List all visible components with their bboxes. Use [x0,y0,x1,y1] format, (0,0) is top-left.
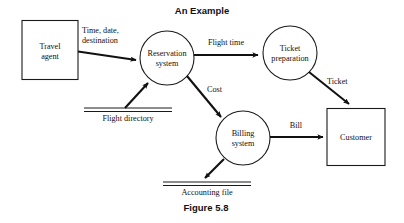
time-date-destination-label-line1: Time, date, [82,26,119,35]
ticket-preparation-label-line2: preparation [271,54,308,63]
reservation-system-circle [140,31,194,85]
data-flow-ticket[interactable]: Ticket [309,72,349,104]
data-flow-cost[interactable]: Cost [187,76,223,117]
cost-label: Cost [207,85,223,94]
reservation-system-label-line1: Reservation [147,49,186,58]
data-flow-diagram: An Example Travel agent Reservation syst… [0,0,404,223]
customer-label-line1: Customer [340,133,372,142]
figure-caption: Figure 5.8 [184,202,229,213]
data-store-accounting-file[interactable]: Accounting file [163,182,251,197]
travel-agent-label-line2: agent [41,52,59,61]
figure-canvas: An Example Travel agent Reservation syst… [0,0,404,223]
billing-system-circle [216,111,270,165]
flight-directory-read-arrow [125,83,148,108]
data-flow-time-date-destination[interactable]: Time, date, destination [78,26,136,60]
accounting-file-label: Accounting file [181,188,233,197]
billing-system-label-line2: system [232,139,255,148]
page-title: An Example [175,5,229,16]
flight-time-label: Flight time [208,38,245,47]
process-billing-system[interactable]: Billing system [216,111,270,165]
billing-system-label-line1: Billing [232,129,255,138]
process-ticket-preparation[interactable]: Ticket preparation [263,26,317,80]
data-flow-bill[interactable]: Bill [270,121,323,137]
external-entity-customer[interactable]: Customer [327,109,385,166]
data-store-flight-directory[interactable]: Flight directory [84,108,172,123]
accounting-file-write-arrow [205,159,224,178]
flight-directory-label: Flight directory [102,114,154,123]
data-flow-flight-directory-read[interactable] [125,83,148,108]
ticket-label: Ticket [327,77,348,86]
travel-agent-label-line1: Travel [39,42,61,51]
data-flow-accounting-file-write[interactable] [205,159,224,178]
bill-label: Bill [290,121,303,130]
ticket-preparation-label-line1: Ticket [280,44,301,53]
time-date-destination-label-line2: destination [82,36,118,45]
process-reservation-system[interactable]: Reservation system [140,31,194,85]
external-entity-travel-agent[interactable]: Travel agent [22,21,78,80]
data-flow-flight-time[interactable]: Flight time [194,38,258,55]
reservation-system-label-line2: system [156,59,179,68]
ticket-preparation-circle [263,26,317,80]
cost-arrow [187,76,221,117]
time-date-destination-arrow [78,52,136,61]
